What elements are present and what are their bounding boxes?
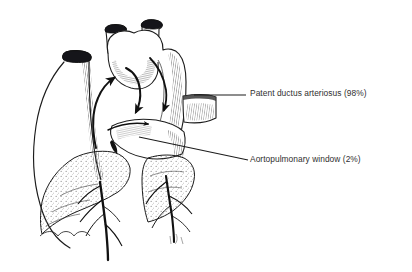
label-aortopulmonary-window: Aortopulmonary window (2%) xyxy=(250,154,361,164)
right-pulmonary-artery xyxy=(183,95,216,123)
svc-lumen xyxy=(63,51,91,63)
heart-illustration xyxy=(0,0,412,272)
label-patent-ductus-arteriosus: Patent ductus arteriosus (98%) xyxy=(250,88,366,98)
branch-right-lumen xyxy=(141,20,162,29)
